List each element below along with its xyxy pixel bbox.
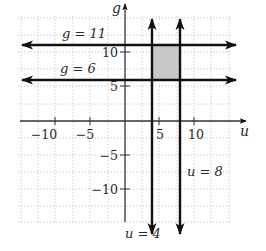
tick-label-g-neg10: −10 [92, 182, 118, 197]
tick-label-g-5: 5 [110, 79, 118, 94]
u-axis-label: u [240, 123, 249, 139]
tick-label-u-neg10: −10 [31, 127, 57, 142]
label-u-8: u = 8 [187, 164, 223, 179]
tick-label-g-10: 10 [102, 45, 118, 60]
label-g-11: g = 11 [62, 26, 106, 41]
tick-label-g-neg5: −5 [100, 148, 118, 163]
label-u-4: u = 4 [125, 226, 161, 241]
label-g-6: g = 6 [60, 61, 96, 76]
g-axis-label: g [112, 0, 121, 16]
coordinate-plane: g u −10 −5 5 10 10 5 −5 −10 g = 11 g = 6… [0, 0, 266, 251]
tick-label-u-5: 5 [156, 127, 164, 142]
tick-label-u-neg5: −5 [76, 127, 94, 142]
tick-label-u-10: 10 [188, 127, 204, 142]
shaded-region [152, 45, 180, 80]
